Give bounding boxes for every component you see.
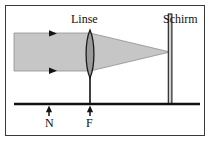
- screen-bar: [168, 14, 172, 104]
- screen-label: Schirm: [163, 13, 198, 25]
- converging-beam-cone: [90, 33, 170, 71]
- marker-f-arrowhead-icon: [87, 106, 93, 113]
- converging-lens: [86, 30, 94, 78]
- lens-label: Linse: [71, 13, 98, 25]
- incoming-parallel-beam: [14, 33, 90, 71]
- point-n-label: N: [45, 117, 54, 129]
- marker-n-arrowhead-icon: [46, 106, 52, 113]
- point-f-label: F: [86, 117, 93, 129]
- figure-canvas: Linse Schirm N F: [0, 0, 214, 142]
